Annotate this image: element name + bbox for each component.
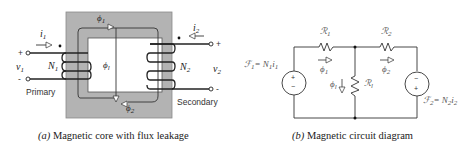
dot-polarity-primary — [59, 45, 62, 48]
label-secondary: Secondary — [177, 98, 218, 107]
label-i1: i1 — [40, 29, 46, 41]
caption-b: (b) Magnetic circuit diagram — [292, 130, 413, 141]
label-phil: ϕl — [103, 61, 110, 72]
i1-arrow — [36, 42, 52, 48]
dot-polarity-secondary — [178, 37, 181, 40]
resistor-R1 — [319, 43, 333, 51]
terminal-primary-minus — [26, 77, 30, 81]
resistor-R2 — [380, 43, 394, 51]
label-F1-plus: + — [291, 74, 295, 81]
node-top — [354, 46, 357, 49]
label-F1: ℱ1= N1i1 — [244, 60, 278, 71]
resistor-Rl — [351, 76, 359, 96]
label-v1: v1 — [16, 62, 24, 74]
label-F2-plus: + — [414, 85, 418, 92]
label-primary: Primary — [26, 88, 55, 97]
label-plus-primary: + — [18, 49, 23, 58]
label-R1: ℛ1 — [320, 27, 331, 38]
label-i2: i2 — [193, 23, 199, 35]
label-Rl: ℛl — [364, 79, 373, 90]
terminal-secondary-plus — [209, 42, 213, 46]
label-v2: v2 — [213, 64, 221, 76]
label-phi2: ϕ2 — [126, 104, 134, 115]
label-F2-minus: − — [414, 75, 418, 82]
label-F2: ℱ2= N2i2 — [423, 96, 457, 107]
phi2-circuit-arrow — [380, 57, 394, 63]
terminal-secondary-minus — [209, 87, 213, 91]
node-bottom — [354, 117, 357, 120]
phi1-circuit-arrow — [318, 57, 332, 63]
label-phi1: ϕ1 — [97, 14, 105, 25]
caption-a: (a) Magnetic core with flux leakage — [38, 130, 189, 141]
circuit-wires — [294, 47, 417, 118]
label-F1-minus: − — [291, 83, 295, 90]
label-N2: N2 — [180, 62, 190, 74]
label-minus-secondary: - — [216, 85, 219, 94]
label-phi1-circuit: ϕ1 — [320, 65, 328, 76]
phil-circuit-arrow — [339, 79, 345, 93]
label-minus-primary: - — [18, 75, 21, 84]
label-phil-circuit: ϕl — [330, 80, 337, 91]
label-plus-secondary: + — [216, 40, 221, 49]
label-phi2-circuit: ϕ2 — [382, 65, 390, 76]
terminal-primary-plus — [26, 51, 30, 55]
label-R2: ℛ2 — [381, 27, 392, 38]
label-N1: N1 — [48, 61, 58, 73]
